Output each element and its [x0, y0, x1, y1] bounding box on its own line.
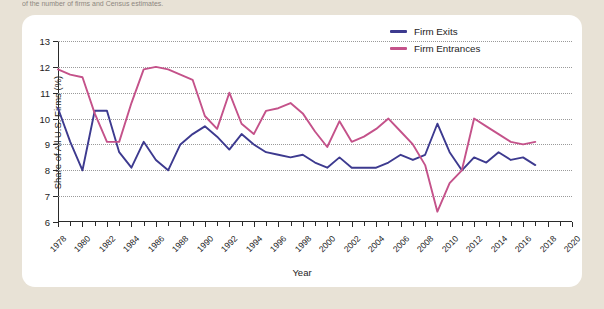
chart-legend: Firm Exits Firm Entrances	[390, 23, 530, 57]
x-axis-tick-label: 1992	[211, 234, 239, 262]
x-axis-tick	[523, 222, 524, 227]
x-axis-tick	[291, 222, 292, 226]
y-axis-tick-label: 12	[39, 61, 50, 72]
x-axis-tick	[278, 222, 279, 227]
x-axis-tick-label: 1994	[236, 234, 264, 262]
x-axis-tick	[339, 222, 340, 226]
x-axis-tick	[107, 222, 108, 227]
series-layer	[58, 41, 572, 222]
x-axis-tick	[364, 222, 365, 226]
legend-label: Firm Exits	[414, 26, 458, 37]
top-caption-text: of the number of firms and Census estima…	[0, 0, 604, 7]
y-axis-tick-label: 10	[39, 113, 50, 124]
y-axis-tick-label: 11	[40, 87, 50, 98]
x-axis-tick	[535, 222, 536, 226]
x-axis-title: Year	[22, 267, 582, 278]
x-axis-tick-label: 1988	[162, 234, 190, 262]
x-axis-tick	[70, 222, 71, 226]
x-axis-tick	[144, 222, 145, 226]
series-line-firm-entrances	[58, 67, 535, 212]
x-axis-tick	[131, 222, 132, 227]
x-axis-tick	[388, 222, 389, 226]
x-axis-tick-label: 2014	[481, 234, 509, 262]
y-axis-tick-label: 13	[39, 36, 50, 47]
x-axis-tick	[437, 222, 438, 226]
x-axis-tick-label: 2002	[334, 234, 362, 262]
y-axis-tick-label: 9	[45, 139, 50, 150]
x-axis-tick	[156, 222, 157, 227]
x-axis-tick-label: 1982	[89, 234, 117, 262]
x-axis-tick	[511, 222, 512, 226]
legend-label: Firm Entrances	[414, 43, 480, 54]
x-axis-tick-label: 1998	[285, 234, 313, 262]
y-axis-tick-label: 8	[45, 165, 50, 176]
x-axis-tick	[474, 222, 475, 227]
x-axis-tick	[376, 222, 377, 227]
x-axis-tick	[242, 222, 243, 226]
figure-card: Share of All U.S. Firms (%) Year 6789101…	[22, 15, 582, 287]
plot-area: 678910111213 197819801982198419861988199…	[58, 41, 572, 222]
x-axis-tick-label: 2016	[505, 234, 533, 262]
x-axis-tick-label: 2008	[407, 234, 435, 262]
x-axis-tick	[401, 222, 402, 227]
x-axis-tick-label: 1990	[187, 234, 215, 262]
x-axis-tick	[58, 222, 59, 227]
figure-page: of the number of firms and Census estima…	[0, 0, 604, 309]
x-axis-tick-label: 2012	[456, 234, 484, 262]
x-axis-tick	[168, 222, 169, 226]
x-axis-tick	[266, 222, 267, 226]
x-axis-tick-label: 1986	[138, 234, 166, 262]
x-axis-tick	[499, 222, 500, 227]
x-axis-tick	[217, 222, 218, 226]
x-axis-tick-label: 1996	[260, 234, 288, 262]
x-axis-tick	[486, 222, 487, 226]
x-axis-tick-label: 2006	[383, 234, 411, 262]
y-axis-tick-label: 6	[45, 217, 50, 228]
legend-item-firm-entrances[interactable]: Firm Entrances	[390, 40, 530, 57]
x-axis-tick	[560, 222, 561, 226]
x-axis-tick-label: 2010	[432, 234, 460, 262]
x-axis-tick	[254, 222, 255, 227]
x-axis-tick	[229, 222, 230, 227]
legend-item-firm-exits[interactable]: Firm Exits	[390, 23, 530, 40]
x-axis-tick	[95, 222, 96, 226]
x-axis-tick	[425, 222, 426, 227]
x-axis-tick	[303, 222, 304, 227]
y-axis-tick-label: 7	[45, 191, 50, 202]
x-axis-tick	[352, 222, 353, 227]
x-axis-tick	[548, 222, 549, 227]
legend-swatch-icon	[390, 30, 407, 33]
x-axis-tick-label: 2018	[530, 234, 558, 262]
x-axis-tick	[180, 222, 181, 227]
x-axis-tick	[327, 222, 328, 227]
x-axis-tick-label: 2000	[309, 234, 337, 262]
x-axis-tick	[450, 222, 451, 227]
x-axis-tick	[413, 222, 414, 226]
x-axis-tick	[572, 222, 573, 227]
x-axis-tick	[119, 222, 120, 226]
x-axis-tick-label: 1980	[65, 234, 93, 262]
x-axis-tick-label: 1978	[40, 234, 68, 262]
x-axis-tick	[82, 222, 83, 227]
x-axis-tick-label: 1984	[114, 234, 142, 262]
x-axis-tick	[462, 222, 463, 226]
x-axis-tick	[193, 222, 194, 226]
x-axis-tick-label: 2004	[358, 234, 386, 262]
x-axis-tick	[205, 222, 206, 227]
x-axis-tick-label: 2020	[554, 234, 582, 262]
legend-swatch-icon	[390, 47, 407, 50]
x-axis-tick	[315, 222, 316, 226]
